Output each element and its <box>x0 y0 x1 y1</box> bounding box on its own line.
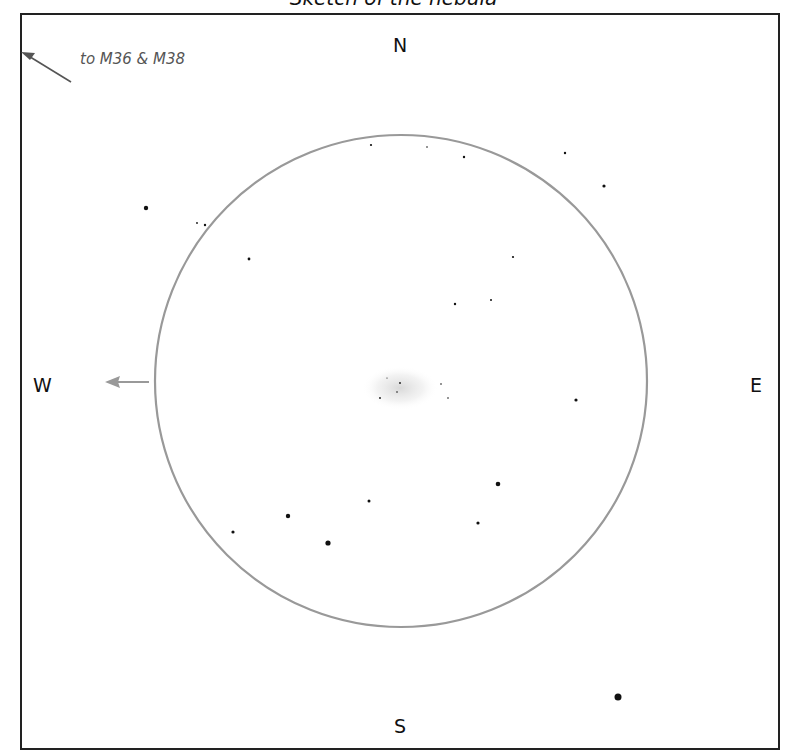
star <box>204 224 206 226</box>
star <box>196 222 198 224</box>
star <box>447 397 449 399</box>
star <box>368 500 371 503</box>
east-label: E <box>750 374 762 396</box>
sketch-canvas <box>0 0 787 754</box>
star <box>574 398 577 401</box>
star <box>426 146 428 148</box>
star <box>379 397 381 399</box>
star <box>370 144 372 146</box>
star <box>386 377 387 378</box>
star <box>496 482 501 487</box>
star <box>248 258 251 261</box>
star <box>490 299 492 301</box>
star <box>602 184 605 187</box>
star <box>564 152 566 154</box>
star <box>476 521 479 524</box>
star <box>615 694 622 701</box>
pointer-arrow-icon <box>21 52 71 82</box>
star <box>231 530 234 533</box>
star <box>454 303 456 305</box>
star <box>512 256 514 258</box>
north-label: N <box>393 34 407 56</box>
star <box>440 383 442 385</box>
star <box>144 206 148 210</box>
pointer-note: to M36 & M38 <box>80 50 185 68</box>
star <box>463 156 465 158</box>
west-arrow-icon <box>105 376 149 388</box>
nebula-glow <box>362 366 438 410</box>
south-label: S <box>394 715 406 737</box>
star <box>286 514 290 518</box>
star-field <box>144 144 622 701</box>
star <box>399 382 401 384</box>
west-label: W <box>33 374 52 396</box>
star <box>325 540 330 545</box>
star <box>396 391 398 393</box>
